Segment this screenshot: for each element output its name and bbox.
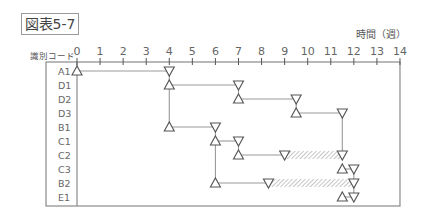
axis-tick-label: 6 (212, 45, 219, 58)
row-label: D1 (58, 80, 71, 91)
axis-tick-label: 11 (324, 45, 338, 58)
axis-tick-label: 1 (97, 45, 104, 58)
axis-tick-label: 4 (166, 45, 173, 58)
axis-tick-label: 2 (120, 45, 127, 58)
axis-tick-label: 10 (301, 45, 315, 58)
row-label: B2 (58, 178, 71, 189)
row-label: C1 (58, 136, 71, 147)
row-header-label: 識別コード (30, 51, 75, 61)
axis-tick-label: 0 (74, 45, 81, 58)
axis-tick-label: 8 (258, 45, 265, 58)
axis-tick-label: 12 (347, 45, 361, 58)
row-labels: A1D1D2D3B1C1C2C3B2E1 (58, 66, 71, 203)
axis-tick-label: 14 (393, 45, 407, 58)
float-hatch (268, 179, 353, 187)
axis-tick-label: 5 (189, 45, 196, 58)
row-label: B1 (58, 122, 71, 133)
row-label: D2 (58, 94, 71, 105)
axis-tick-label: 9 (281, 45, 288, 58)
row-label: E1 (58, 192, 70, 203)
row-label: D3 (58, 108, 71, 119)
axis-tick-label: 3 (143, 45, 150, 58)
row-label: C3 (58, 164, 71, 175)
row-label: C2 (58, 150, 71, 161)
activity-bars (72, 66, 359, 202)
axis-tick-label: 7 (235, 45, 242, 58)
row-label: A1 (58, 66, 71, 77)
gantt-chart: 識別コード 01234567891011121314 A1D1D2D3B1C1C… (0, 0, 429, 217)
axis-tick-label: 13 (370, 45, 384, 58)
float-hatch (285, 151, 343, 159)
